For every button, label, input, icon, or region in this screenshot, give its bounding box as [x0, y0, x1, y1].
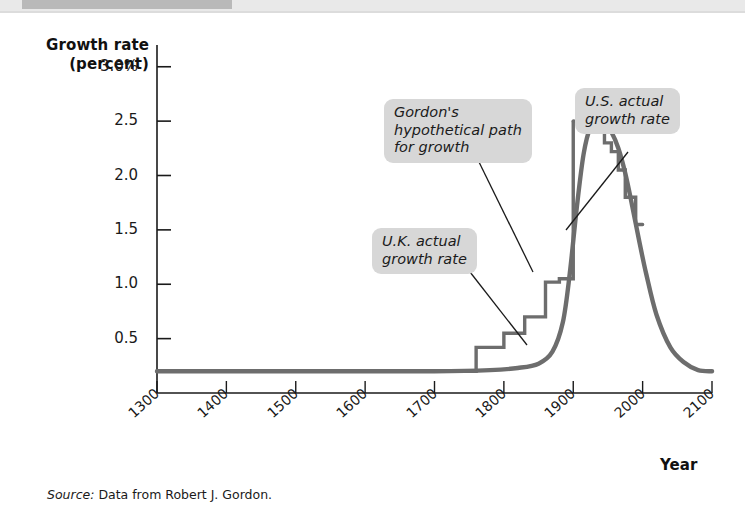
- callout-uk-actual: U.K. actual growth rate: [372, 228, 477, 274]
- callout-us-actual: U.S. actual growth rate: [575, 88, 680, 134]
- callout-gordon-hypothetical: Gordon's hypothetical path for growth: [384, 99, 532, 163]
- leader-line: [478, 160, 533, 272]
- leader-line: [470, 272, 527, 345]
- callout-leader-lines: [470, 152, 628, 345]
- figure-container: Growth rate (percent) Year 0.51.01.52.02…: [0, 0, 745, 517]
- source-note-text: Data from Robert J. Gordon.: [94, 487, 272, 502]
- leader-line: [566, 152, 628, 230]
- source-note-lead: Source:: [47, 487, 94, 502]
- source-note: Source: Data from Robert J. Gordon.: [47, 487, 272, 502]
